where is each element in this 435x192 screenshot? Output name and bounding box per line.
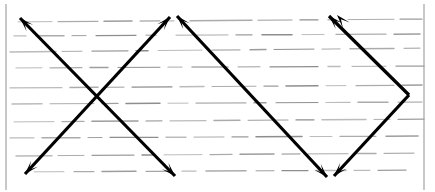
zigzag-arrow-diagram xyxy=(0,0,435,192)
canvas-background xyxy=(0,0,435,192)
figure-root xyxy=(0,0,435,192)
